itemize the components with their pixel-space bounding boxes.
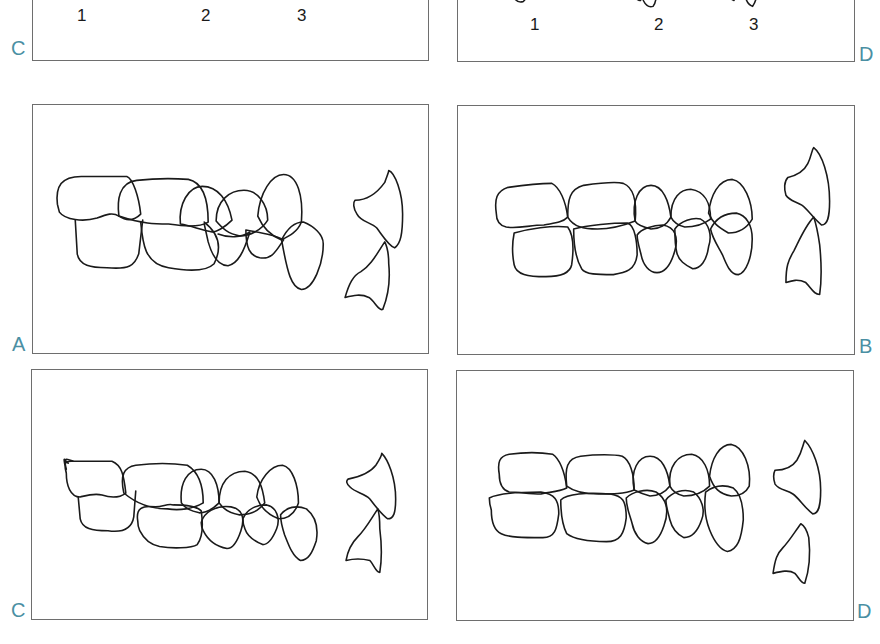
- upper-canine: [710, 444, 750, 496]
- panel-label-top-c: C: [11, 38, 25, 58]
- lower-molar-1: [489, 492, 558, 538]
- occlusion-diagram-b: [458, 106, 854, 354]
- numeral-1: 1: [530, 16, 539, 33]
- upper-molar-1: [499, 453, 567, 494]
- partial-arch-drawing: [33, 0, 428, 60]
- upper-premolar-1: [180, 186, 232, 232]
- upper-molar-1: [64, 459, 126, 497]
- panel-label-b: B: [859, 336, 872, 356]
- numeral-2: 2: [654, 16, 663, 33]
- lower-premolar-2: [243, 505, 278, 545]
- occlusion-diagram-d: [457, 371, 853, 620]
- lower-incisor: [786, 217, 821, 294]
- occlusion-diagram-c: [32, 370, 427, 619]
- upper-incisor: [785, 148, 830, 225]
- top-right-partial-panel: 1 2 3: [457, 0, 855, 62]
- upper-canine: [709, 179, 753, 233]
- lower-molar-1: [513, 226, 573, 276]
- upper-premolar-2: [216, 190, 268, 236]
- lower-premolar-2: [666, 490, 703, 537]
- numeral-1: 1: [77, 7, 86, 24]
- lower-molar-2: [561, 493, 626, 541]
- lower-incisor: [773, 524, 809, 584]
- upper-canine: [258, 174, 302, 239]
- panel-a: [32, 104, 429, 354]
- panel-label-c: C: [11, 600, 25, 620]
- panel-b: [457, 105, 855, 355]
- upper-incisor: [354, 170, 403, 247]
- numeral-3: 3: [297, 7, 306, 24]
- panel-label-d: D: [857, 601, 871, 621]
- panel-label-a: A: [12, 334, 25, 354]
- lower-molar-1: [75, 220, 142, 268]
- numeral-2: 2: [201, 7, 210, 24]
- top-left-partial-panel: 1 2 3: [32, 0, 429, 61]
- lower-canine: [282, 222, 324, 289]
- lower-canine: [711, 213, 753, 275]
- lower-canine: [281, 507, 317, 561]
- lower-premolar-1: [626, 490, 666, 543]
- lower-incisor: [346, 509, 381, 572]
- upper-incisor: [774, 440, 821, 513]
- occlusion-diagram-a: [33, 105, 428, 353]
- lower-molar-2: [141, 222, 219, 270]
- numeral-3: 3: [749, 16, 758, 33]
- panel-c: [31, 369, 428, 620]
- lower-premolar-1: [637, 225, 676, 273]
- lower-molar-2: [574, 223, 637, 275]
- lower-incisor: [345, 242, 389, 310]
- upper-molar-2: [566, 455, 634, 494]
- panel-label-top-d: D: [859, 44, 873, 64]
- panel-d: [456, 370, 854, 621]
- upper-premolar-2: [670, 454, 710, 496]
- upper-molar-1: [496, 183, 568, 227]
- upper-molar-2: [568, 183, 636, 229]
- upper-premolar-1: [634, 185, 671, 229]
- lower-premolar-1: [201, 507, 243, 549]
- upper-incisor: [347, 453, 396, 518]
